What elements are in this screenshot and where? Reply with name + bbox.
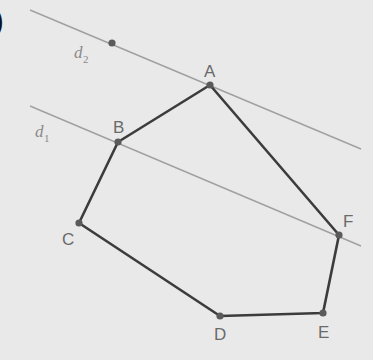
label-d2-subscript: 2 <box>83 53 89 65</box>
label-c: C <box>62 230 74 249</box>
label-e: E <box>318 323 329 342</box>
line-d2 <box>30 10 361 149</box>
geometry-diagram: ) A B C D E F d 2 d 1 <box>0 0 373 360</box>
point-on-d2 <box>108 39 115 46</box>
corner-glyph: ) <box>0 5 3 36</box>
point-c <box>75 219 82 226</box>
label-a: A <box>204 62 216 81</box>
label-d1-subscript: 1 <box>44 132 50 144</box>
point-d <box>216 312 223 319</box>
point-f <box>335 231 342 238</box>
point-e <box>319 309 326 316</box>
diagram-svg: ) A B C D E F d 2 d 1 <box>0 0 373 360</box>
label-d: D <box>214 325 226 344</box>
point-b <box>114 138 121 145</box>
label-d1: d <box>35 122 44 141</box>
point-a <box>206 81 213 88</box>
label-d2: d <box>74 43 83 62</box>
label-f: F <box>343 212 353 231</box>
label-b: B <box>113 118 124 137</box>
